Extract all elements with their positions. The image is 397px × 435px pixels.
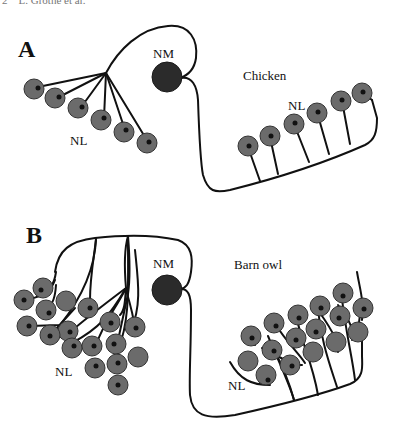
nl-right-label-a: NL	[288, 98, 305, 113]
diagram-canvas: A NM	[0, 0, 397, 435]
nl-right-cells-a	[238, 83, 372, 156]
panel-b: B	[14, 222, 373, 417]
nm-label-a: NM	[153, 46, 174, 61]
species-label-b: Barn owl	[234, 257, 282, 272]
panel-a: A NM	[18, 26, 377, 191]
nm-label-b: NM	[153, 256, 174, 271]
nl-left-label-a: NL	[70, 133, 87, 148]
nl-left-label-b: NL	[55, 364, 72, 379]
nl-left-cells-a	[24, 79, 157, 153]
panel-letter-b: B	[26, 222, 42, 248]
species-label-a: Chicken	[243, 68, 287, 83]
nm-cell-a	[152, 62, 182, 92]
panel-letter-a: A	[18, 36, 36, 62]
nl-right-label-b: NL	[228, 378, 245, 393]
nm-cell-b	[152, 275, 182, 305]
